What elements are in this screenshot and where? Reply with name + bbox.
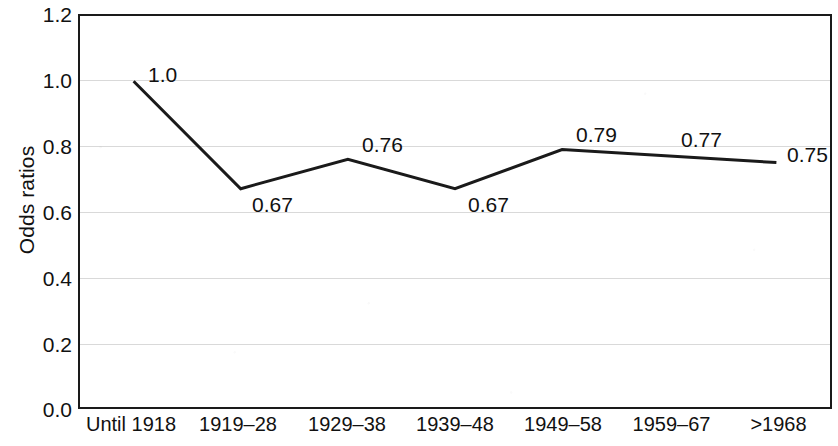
y-tick-label-0.0: 0.0 <box>20 399 72 420</box>
x-tick-label-gt-1968: >1968 <box>725 414 832 434</box>
data-label-6: 0.77 <box>681 129 722 150</box>
y-tick-label-0.8: 0.8 <box>20 136 72 157</box>
x-tick-label-1959-67: 1959–67 <box>618 414 725 434</box>
x-tick-label-1919-28: 1919–28 <box>184 414 292 434</box>
data-line-odds-ratios <box>134 81 777 189</box>
y-tick-label-0.4: 0.4 <box>20 268 72 289</box>
y-tick-label-1.0: 1.0 <box>20 70 72 91</box>
x-tick-label-until-1918: Until 1918 <box>78 414 184 434</box>
data-label-7: 0.75 <box>787 144 828 165</box>
x-tick-label-1929-38: 1929–38 <box>292 414 402 434</box>
x-tick-label-1949-58: 1949–58 <box>508 414 618 434</box>
data-label-4: 0.67 <box>468 194 509 215</box>
data-label-5: 0.79 <box>576 124 617 145</box>
data-label-3: 0.76 <box>362 134 403 155</box>
chart-canvas <box>80 16 830 407</box>
plot-area: 1.0 0.67 0.76 0.67 0.79 0.77 0.75 <box>78 14 832 409</box>
data-label-2: 0.67 <box>252 194 293 215</box>
chart-figure: Odds ratios 1.2 1.0 0.8 0.6 0.4 0.2 0.0 … <box>0 0 838 446</box>
x-tick-label-1939-48: 1939–48 <box>402 414 508 434</box>
data-label-1: 1.0 <box>148 64 177 85</box>
gridlines <box>80 81 830 344</box>
y-tick-label-0.2: 0.2 <box>20 334 72 355</box>
y-tick-label-0.6: 0.6 <box>20 202 72 223</box>
y-axis-tick-labels: 1.2 1.0 0.8 0.6 0.4 0.2 0.0 <box>16 0 72 446</box>
y-tick-label-1.2: 1.2 <box>20 4 72 25</box>
